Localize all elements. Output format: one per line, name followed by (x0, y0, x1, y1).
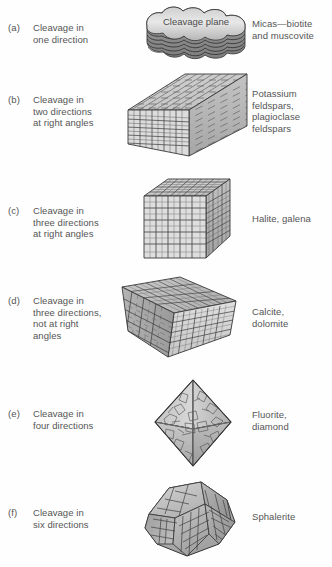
example-line: Calcite, (252, 306, 332, 318)
desc-line: Cleavage in (33, 205, 138, 217)
row-description-a: Cleavage in one direction (33, 22, 138, 45)
art-elongated-prism (123, 64, 251, 160)
cleavage-row-d: (d) Cleavage in three directions, not at… (0, 267, 332, 377)
row-examples-a: Micas—biotite and muscovite (252, 18, 332, 41)
cleavage-row-e: (e) Cleavage in four directions (0, 377, 332, 472)
row-letter-d: (d) (8, 295, 20, 307)
desc-line: at right angles (33, 228, 138, 240)
example-line: Micas—biotite (252, 18, 332, 30)
row-letter-c: (c) (8, 205, 19, 217)
cleavage-row-a: (a) Cleavage in one direction (0, 0, 332, 62)
row-letter-a: (a) (8, 22, 20, 34)
example-line: dolomite (252, 318, 332, 330)
cleavage-row-c: (c) Cleavage in three directions at righ… (0, 162, 332, 267)
cleavage-plane-label: Cleavage plane (163, 16, 229, 27)
row-letter-f: (f) (8, 507, 17, 519)
art-rhombohedron (118, 271, 244, 371)
example-line: feldspars (252, 123, 332, 135)
example-line: Potassium (252, 88, 332, 100)
desc-line: Cleavage in (33, 408, 138, 420)
row-description-f: Cleavage in six directions (33, 507, 138, 530)
desc-line: Cleavage in (33, 507, 138, 519)
desc-line: Cleavage in (33, 22, 138, 34)
art-octahedron (152, 377, 234, 469)
example-line: Halite, galena (252, 213, 332, 225)
art-dodecahedron (131, 478, 245, 562)
example-line: Fluorite, (252, 409, 332, 421)
desc-line: four directions (33, 420, 138, 432)
row-letter-e: (e) (8, 408, 20, 420)
art-cube (138, 174, 238, 266)
desc-line: six directions (33, 519, 138, 531)
mineral-cleavage-figure: (a) Cleavage in one direction (0, 0, 332, 567)
row-examples-b: Potassium feldspars, plagioclase feldspa… (252, 88, 332, 134)
row-description-c: Cleavage in three directions at right an… (33, 205, 138, 240)
desc-line: one direction (33, 34, 138, 46)
cleavage-row-f: (f) Cleavage in six directions (0, 472, 332, 567)
example-line: Sphalerite (252, 511, 332, 523)
desc-line: three directions (33, 217, 138, 229)
prism-front-face (128, 110, 189, 156)
example-line: plagioclase (252, 111, 332, 123)
cube-front-face (144, 196, 206, 258)
row-description-e: Cleavage in four directions (33, 408, 138, 431)
row-examples-c: Halite, galena (252, 213, 332, 225)
art-mica-book: Cleavage plane (142, 4, 256, 60)
row-examples-f: Sphalerite (252, 511, 332, 523)
row-examples-e: Fluorite, diamond (252, 409, 332, 432)
example-line: feldspars, (252, 100, 332, 112)
example-line: diamond (252, 421, 332, 433)
example-line: and muscovite (252, 30, 332, 42)
row-examples-d: Calcite, dolomite (252, 306, 332, 329)
row-letter-b: (b) (8, 94, 20, 106)
cleavage-row-b: (b) Cleavage in two directions at right … (0, 62, 332, 162)
